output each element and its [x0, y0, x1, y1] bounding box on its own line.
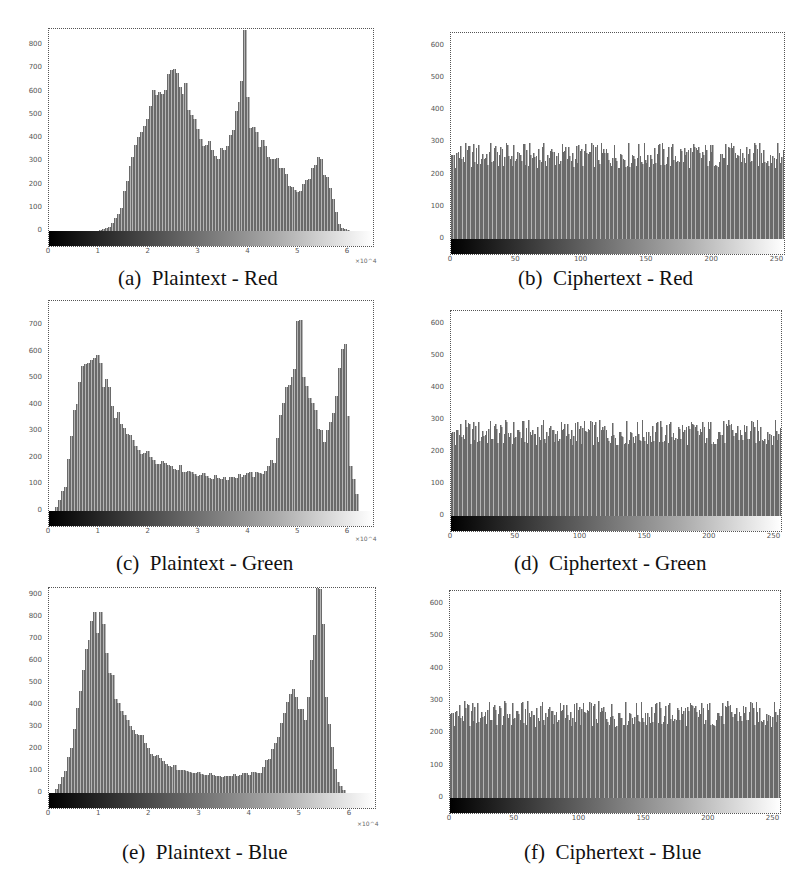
panel-ciphertext-blue: 0100200300400500600 050100150200250 (f) … — [400, 580, 799, 879]
gray-gradient-bar — [49, 793, 375, 808]
y-tick-label: 600 — [418, 41, 444, 49]
y-tick-label: 300 — [16, 722, 42, 730]
y-tick-label: 500 — [418, 351, 444, 359]
histogram-plot-a — [48, 28, 374, 247]
histogram-plot-c — [48, 300, 374, 527]
y-tick-label: 500 — [16, 373, 42, 381]
x-tick-label: 0 — [440, 255, 460, 263]
caption-d: (d) Ciphertext - Green — [514, 551, 706, 576]
x-tick-label: 0 — [440, 532, 460, 540]
caption-e: (e) Plaintext - Blue — [122, 840, 288, 865]
y-tick-label: 0 — [16, 506, 42, 514]
panel-plaintext-red: 0100200300400500600700800 0123456 ×10^4 … — [0, 0, 400, 295]
x-tick-label: 0 — [38, 247, 58, 255]
panel-plaintext-blue: 0100200300400500600700800900 0123456 ×10… — [0, 580, 400, 879]
gray-gradient-bar — [451, 239, 784, 254]
x-exponent-label: ×10^4 — [355, 257, 377, 264]
x-tick-label: 2 — [138, 247, 158, 255]
y-tick-label: 0 — [16, 226, 42, 234]
x-tick-label: 200 — [698, 814, 718, 822]
gray-gradient-bar — [450, 798, 780, 813]
y-tick-label: 100 — [418, 479, 444, 487]
gray-gradient-bar — [451, 516, 781, 531]
y-tick-label: 400 — [418, 105, 444, 113]
x-tick-label: 6 — [339, 809, 359, 817]
caption-c: (c) Plaintext - Green — [116, 551, 293, 576]
x-tick-label: 100 — [571, 255, 591, 263]
y-tick-label: 400 — [418, 383, 444, 391]
histogram-plot-d — [450, 310, 782, 532]
y-tick-label: 100 — [16, 479, 42, 487]
histogram-bars-b — [451, 33, 784, 239]
y-tick-label: 700 — [16, 634, 42, 642]
x-tick-label: 4 — [237, 527, 257, 535]
histogram-bar — [355, 494, 358, 511]
histogram-bar — [780, 428, 781, 516]
y-tick-label: 300 — [16, 426, 42, 434]
histogram-bars-e — [49, 588, 375, 793]
y-tick-label: 100 — [417, 761, 443, 769]
x-exponent-label: ×10^4 — [357, 820, 379, 827]
gray-gradient-bar — [49, 231, 373, 246]
y-tick-label: 300 — [417, 696, 443, 704]
y-tick-label: 500 — [16, 110, 42, 118]
x-tick-label: 2 — [138, 527, 158, 535]
y-tick-label: 500 — [418, 73, 444, 81]
y-tick-label: 200 — [418, 447, 444, 455]
y-tick-label: 100 — [418, 202, 444, 210]
histogram-plot-e — [48, 587, 376, 809]
caption-f: (f) Ciphertext - Blue — [524, 840, 701, 865]
x-tick-label: 50 — [505, 532, 525, 540]
x-tick-label: 200 — [699, 532, 719, 540]
x-tick-label: 2 — [138, 809, 158, 817]
histogram-bars-c — [49, 301, 373, 511]
y-tick-label: 500 — [417, 631, 443, 639]
histogram-bars-a — [49, 29, 373, 231]
y-tick-label: 600 — [418, 319, 444, 327]
y-tick-label: 700 — [16, 320, 42, 328]
histogram-bars-f — [450, 591, 780, 798]
y-tick-label: 600 — [16, 87, 42, 95]
caption-a: (a) Plaintext - Red — [118, 266, 278, 291]
x-tick-label: 250 — [763, 814, 783, 822]
x-tick-label: 1 — [88, 809, 108, 817]
x-tick-label: 5 — [287, 247, 307, 255]
x-tick-label: 4 — [239, 809, 259, 817]
y-tick-label: 200 — [16, 180, 42, 188]
x-tick-label: 3 — [188, 809, 208, 817]
x-tick-label: 150 — [634, 532, 654, 540]
y-tick-label: 700 — [16, 63, 42, 71]
panel-plaintext-green: 0100200300400500600700 0123456 ×10^4 (c)… — [0, 295, 400, 580]
y-tick-label: 200 — [16, 744, 42, 752]
histogram-plot-f — [449, 590, 781, 814]
y-tick-label: 0 — [418, 234, 444, 242]
histogram-plot-b — [450, 32, 785, 255]
y-tick-label: 400 — [16, 133, 42, 141]
x-tick-label: 250 — [764, 532, 784, 540]
y-tick-label: 400 — [16, 700, 42, 708]
y-tick-label: 600 — [16, 347, 42, 355]
x-tick-label: 0 — [38, 527, 58, 535]
x-tick-label: 250 — [766, 255, 786, 263]
x-exponent-label: ×10^4 — [355, 535, 377, 542]
histogram-bar — [779, 709, 780, 798]
y-tick-label: 200 — [418, 170, 444, 178]
x-tick-label: 1 — [88, 527, 108, 535]
x-tick-label: 1 — [88, 247, 108, 255]
y-tick-label: 900 — [16, 590, 42, 598]
x-tick-label: 6 — [337, 527, 357, 535]
y-tick-label: 600 — [417, 599, 443, 607]
panel-ciphertext-red: 0100200300400500600 050100150200250 (b) … — [400, 0, 799, 295]
y-tick-label: 0 — [417, 793, 443, 801]
histogram-bars-d — [451, 311, 781, 516]
y-tick-label: 300 — [418, 137, 444, 145]
x-tick-label: 5 — [287, 527, 307, 535]
y-tick-label: 800 — [16, 612, 42, 620]
panel-ciphertext-green: 0100200300400500600 050100150200250 (d) … — [400, 295, 799, 580]
gray-gradient-bar — [49, 511, 373, 526]
x-tick-label: 6 — [337, 247, 357, 255]
x-tick-label: 5 — [289, 809, 309, 817]
x-tick-label: 50 — [504, 814, 524, 822]
x-tick-label: 150 — [633, 814, 653, 822]
x-tick-label: 4 — [237, 247, 257, 255]
